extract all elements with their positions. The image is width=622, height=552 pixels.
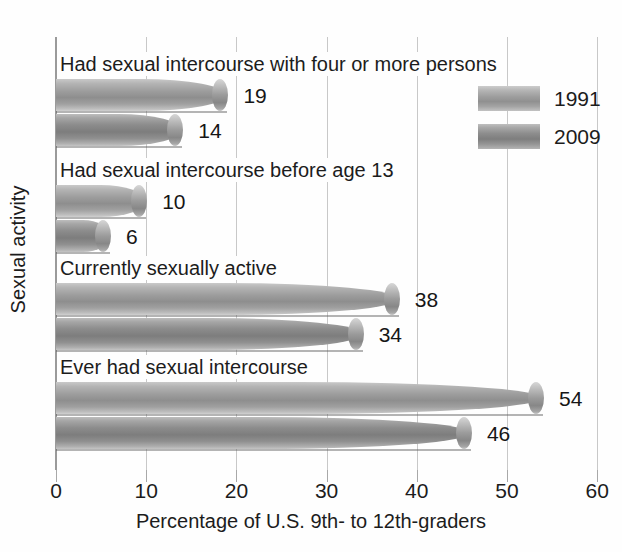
bar-end-cap bbox=[131, 185, 147, 217]
x-tick-label: 50 bbox=[495, 479, 518, 503]
bar-baseline-shadow bbox=[56, 315, 399, 317]
bar-body bbox=[56, 79, 227, 111]
bar-baseline-shadow bbox=[56, 111, 227, 113]
bar-end-cap bbox=[456, 417, 472, 449]
bar-value-label: 19 bbox=[243, 85, 266, 106]
bar-2009-14[interactable] bbox=[56, 114, 182, 146]
category-label: Ever had sexual intercourse bbox=[60, 355, 312, 379]
bar-body bbox=[56, 114, 182, 146]
bar-value-label: 6 bbox=[126, 226, 138, 247]
bar-body bbox=[56, 417, 471, 449]
bar-baseline-shadow bbox=[56, 414, 543, 416]
x-tick-label: 40 bbox=[405, 479, 428, 503]
bar-end-cap bbox=[95, 220, 111, 252]
bar-value-label: 54 bbox=[559, 388, 582, 409]
bar-baseline-shadow bbox=[56, 252, 110, 254]
bar-baseline-shadow bbox=[56, 146, 182, 148]
x-tick-label: 10 bbox=[135, 479, 158, 503]
bar-end-cap bbox=[384, 283, 400, 315]
y-axis-title: Sexual activity bbox=[7, 170, 30, 330]
bar-baseline-shadow bbox=[56, 217, 146, 219]
bar-chart-figure: 0102030405060 Had sexual intercourse wit… bbox=[0, 0, 622, 552]
bar-2009-34[interactable] bbox=[56, 318, 363, 350]
x-tick-label: 0 bbox=[50, 479, 62, 503]
legend-swatch bbox=[478, 86, 540, 111]
bar-value-label: 38 bbox=[415, 289, 438, 310]
bar-2009-46[interactable] bbox=[56, 417, 471, 449]
bar-1991-19[interactable] bbox=[56, 79, 227, 111]
bar-value-label: 46 bbox=[487, 423, 510, 444]
x-tick-label: 20 bbox=[225, 479, 248, 503]
bar-end-cap bbox=[212, 79, 228, 111]
bar-end-cap bbox=[528, 382, 544, 414]
bar-value-label: 34 bbox=[379, 324, 402, 345]
x-tick-label: 30 bbox=[315, 479, 338, 503]
bar-body bbox=[56, 283, 399, 315]
bar-body bbox=[56, 318, 363, 350]
x-tick-label: 60 bbox=[586, 479, 609, 503]
legend-label: 1991 bbox=[554, 86, 601, 111]
bar-1991-10[interactable] bbox=[56, 185, 146, 217]
bar-1991-54[interactable] bbox=[56, 382, 543, 414]
bar-end-cap bbox=[348, 318, 364, 350]
bar-1991-38[interactable] bbox=[56, 283, 399, 315]
category-label: Currently sexually active bbox=[60, 256, 281, 280]
x-axis-title: Percentage of U.S. 9th- to 12th-graders bbox=[0, 510, 622, 533]
legend-label: 2009 bbox=[554, 124, 601, 149]
bar-end-cap bbox=[167, 114, 183, 146]
category-label: Had sexual intercourse before age 13 bbox=[60, 158, 398, 182]
bar-2009-6[interactable] bbox=[56, 220, 110, 252]
category-label: Had sexual intercourse with four or more… bbox=[60, 52, 501, 76]
bar-value-label: 14 bbox=[198, 120, 221, 141]
bar-value-label: 10 bbox=[162, 191, 185, 212]
bar-baseline-shadow bbox=[56, 350, 363, 352]
bar-body bbox=[56, 382, 543, 414]
legend-swatch bbox=[478, 124, 540, 149]
bar-baseline-shadow bbox=[56, 449, 471, 451]
